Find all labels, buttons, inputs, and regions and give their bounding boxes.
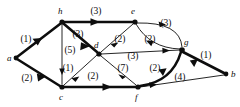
- edge-weight-c-f: (2): [87, 71, 98, 82]
- edge-c-f: [64, 83, 136, 91]
- node-c-dot[interactable]: [59, 84, 64, 89]
- edge-weight-h-d: (3): [72, 29, 83, 40]
- edge-h-e-arrowhead: [91, 18, 101, 26]
- edge-g-b-arrowhead: [190, 59, 198, 67]
- edge-weight-e-g: (3): [160, 18, 171, 29]
- edge-g-e-inner: [136, 24, 180, 49]
- weighted-directed-graph-figure: a h c d e f g b (1) (2) (3) (3) (5) (1) …: [0, 0, 240, 107]
- edge-d-f-arrowhead: [118, 74, 126, 79]
- graph-canvas: a h c d e f g b (1) (2) (3) (3) (5) (1) …: [0, 0, 240, 107]
- edge-weight-h-c: (5): [64, 45, 75, 56]
- node-label-h: h: [58, 6, 63, 16]
- edge-g-e-inner-path: [136, 24, 180, 49]
- edge-weight-e-d: (2): [114, 34, 125, 45]
- node-b-dot[interactable]: [224, 72, 229, 77]
- edge-weight-f-g: (2): [149, 63, 160, 74]
- edge-weight-a-h: (1): [20, 34, 31, 45]
- edge-weight-d-g: (3): [127, 51, 138, 62]
- edge-weight-g-e: (2): [144, 34, 155, 45]
- node-h-dot[interactable]: [59, 19, 64, 24]
- edge-c-f-arrowhead: [103, 83, 113, 91]
- node-label-d: d: [94, 40, 99, 50]
- node-label-e: e: [131, 6, 135, 16]
- node-e-dot[interactable]: [132, 19, 137, 24]
- edge-weight-a-c: (2): [21, 73, 32, 84]
- node-label-a: a: [7, 53, 12, 63]
- edge-h-e: [64, 18, 133, 26]
- node-label-f: f: [135, 92, 139, 102]
- edge-weight-f-b: (4): [174, 72, 185, 83]
- edge-weight-d-c: (1): [62, 63, 73, 74]
- edge-d-g-arrowhead: [162, 48, 170, 54]
- node-label-c: c: [59, 92, 63, 102]
- node-g-dot[interactable]: [179, 47, 185, 53]
- node-f-dot[interactable]: [135, 84, 140, 89]
- node-d-dot[interactable]: [96, 51, 101, 56]
- edge-d-g: [101, 48, 180, 54]
- node-label-g: g: [184, 37, 189, 47]
- node-label-b: b: [231, 69, 236, 79]
- node-a-dot[interactable]: [14, 56, 19, 61]
- edge-weight-d-f: (7): [117, 63, 128, 74]
- edge-weight-h-e: (3): [90, 6, 101, 17]
- edge-weight-g-b: (1): [200, 50, 211, 61]
